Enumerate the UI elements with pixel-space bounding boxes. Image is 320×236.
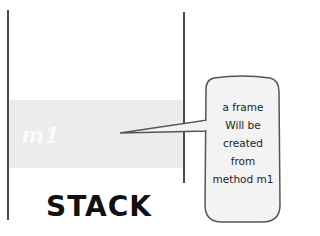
callout-text: a frame Will be created from method m1 bbox=[207, 98, 279, 188]
callout-line: Will be bbox=[207, 116, 279, 134]
callout-line: created bbox=[207, 134, 279, 152]
callout-line: from bbox=[207, 152, 279, 170]
callout-pointer bbox=[120, 120, 207, 133]
callout-line: a frame bbox=[207, 98, 279, 116]
stack-title: STACK bbox=[46, 190, 152, 223]
callout-line: method m1 bbox=[207, 170, 279, 188]
